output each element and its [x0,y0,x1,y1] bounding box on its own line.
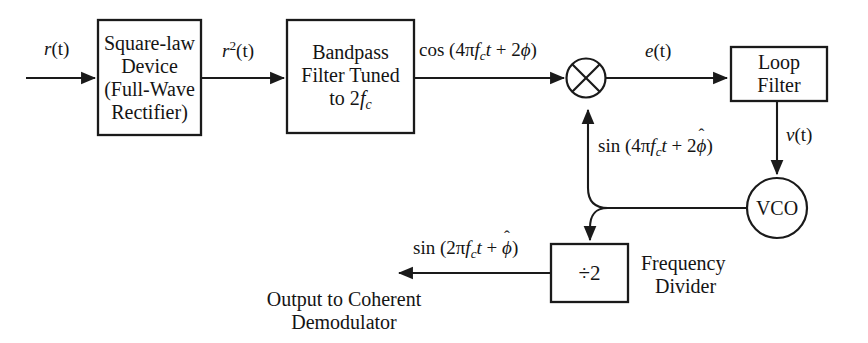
hat-accent-2: ˆ [504,226,510,246]
signal-label-input: r(t) [44,38,69,60]
hat-accent-1: ˆ [698,124,704,144]
close-paren-1: ) [531,39,537,60]
signal-label-bandpass-output: cos (4πfct + 2ϕ) [419,39,537,63]
plus-2: + [672,135,683,156]
signal-label-squared: r2(t) [222,38,254,62]
divider-caption-line-1: Frequency [641,252,725,274]
output-destination-caption: Output to Coherent Demodulator [209,288,479,334]
paren-t-1: (t) [51,38,69,59]
output-caption-line-2: Demodulator [291,311,397,333]
paren-t-4: (t) [794,124,812,145]
plus-3: + [487,237,498,258]
close-paren-3: ) [512,237,518,258]
t-symbol-1: t [486,39,491,60]
four-pi-2: 4π [631,135,650,156]
signal-label-divider-output: sin (2πfct + ˆϕ) [413,237,518,261]
frequency-divider-caption: Frequency Divider [641,252,725,298]
t-symbol-3: t [477,237,482,258]
two-coeff-2: 2 [687,135,697,156]
paren-t-2: (t) [236,40,254,61]
close-paren-2: ) [706,135,712,156]
cos-op: cos [419,39,444,60]
divider-caption-line-2: Divider [641,275,716,298]
signal-label-error: e(t) [645,40,671,62]
block-loop-filter [731,47,827,101]
four-pi-1: 4π [455,39,474,60]
block-bandpass-filter [287,20,414,133]
plus-1: + [496,39,507,60]
output-caption-line-1: Output to Coherent [267,288,421,310]
two-coeff-1: 2 [511,39,521,60]
block-vco [747,178,807,238]
signal-label-vco-feedback: sin (4πfct + 2ˆϕ) [598,135,713,159]
block-square-law-device [98,20,201,135]
paren-t-3: (t) [653,40,671,61]
block-diagram-canvas: Square-law Device (Full-Wave Rectifier) … [0,0,868,343]
phi-hat-group-2: ˆϕ [502,237,512,259]
sin-op-2: sin [413,237,435,258]
sin-op-1: sin [598,135,620,156]
phi-hat-group-1: ˆϕ [697,135,707,157]
t-symbol-2: t [662,135,667,156]
signal-label-control-voltage: v(t) [786,124,812,146]
block-frequency-divider [551,244,628,302]
phi-symbol-1: ϕ [521,39,531,60]
two-pi-1: 2π [446,237,465,258]
wire-feedback-to-divider [590,208,608,240]
